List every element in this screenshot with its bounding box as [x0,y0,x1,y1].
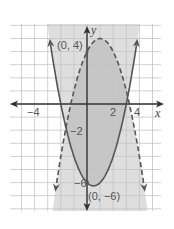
x-tick-neg4: −4 [27,106,40,118]
y-axis-label: y [90,23,97,37]
graph: x y −4 2 4 −2 −6 (0, 4) (0, −6) [0,0,174,229]
x-tick-2: 2 [110,106,116,118]
y-tick-neg2: −2 [70,125,83,137]
point-label-top: (0, 4) [57,39,83,51]
point-0-4 [86,51,89,54]
y-tick-neg6: −6 [74,177,87,189]
x-tick-4: 4 [134,106,140,118]
x-axis-label: x [154,106,161,120]
point-label-bottom: (0, −6) [88,190,120,202]
